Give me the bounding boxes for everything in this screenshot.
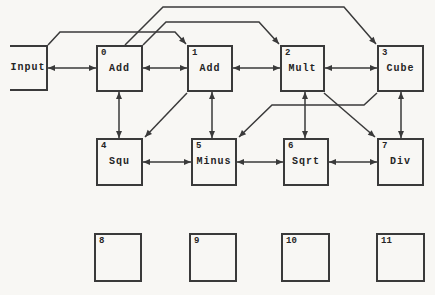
node-4-squ[interactable]: 4Squ: [96, 138, 143, 186]
arrowhead-add1-mult2-end: [273, 65, 280, 71]
node-1-add[interactable]: 1Add: [187, 45, 233, 92]
node-number: 0: [101, 48, 106, 58]
node-label: Add: [109, 63, 130, 75]
arrowhead-sqrt6-div7-end: [370, 159, 377, 165]
node-6-sqrt[interactable]: 6Sqrt: [283, 138, 329, 186]
arrowhead-input-add0-start: [48, 65, 55, 71]
node-label: Minus: [196, 156, 231, 168]
arrowhead-minus5-sqrt6-end: [276, 159, 283, 165]
arrowhead-add1-minus5-start: [209, 92, 215, 99]
node-number: 10: [286, 236, 297, 246]
node-10[interactable]: 10: [281, 233, 330, 282]
arrowhead-squ4-minus5-start: [143, 159, 150, 165]
node-7-div[interactable]: 7Div: [377, 138, 424, 186]
edge-input-add1: [48, 32, 186, 45]
node-label: Cube: [386, 63, 414, 75]
node-9[interactable]: 9: [189, 233, 237, 282]
arrowhead-add1-minus5-end: [209, 131, 215, 138]
edge-add0-mult2: [143, 22, 279, 45]
node-2-mult[interactable]: 2Mult: [280, 45, 325, 92]
arrowhead-mult2-cube3-start: [325, 65, 332, 71]
arrowhead-add1-mult2-start: [233, 65, 240, 71]
node-number: 5: [196, 141, 201, 151]
edge-add1-squ4: [145, 93, 187, 137]
node-label: Add: [199, 63, 220, 75]
node-number: 8: [99, 236, 104, 246]
node-0-add[interactable]: 0Add: [96, 45, 143, 92]
node-label: Sqrt: [292, 156, 320, 168]
arrowhead-add0-squ4-start: [116, 92, 122, 99]
node-label: Input: [10, 62, 45, 74]
arrowhead-cube3-div7-start: [398, 92, 404, 99]
arrowhead-minus5-sqrt6-start: [237, 159, 244, 165]
node-number: 6: [288, 141, 293, 151]
arrowhead-input-add0-end: [89, 65, 96, 71]
arrowhead-mult2-sqrt6-start: [302, 92, 308, 99]
node-8[interactable]: 8: [94, 233, 142, 282]
arrowhead-add0-add1-start: [143, 65, 150, 71]
node-11[interactable]: 11: [376, 233, 425, 282]
arrowhead-add0-add1-end: [180, 65, 187, 71]
node-5-minus[interactable]: 5Minus: [191, 138, 237, 186]
node-3-cube[interactable]: 3Cube: [377, 45, 424, 92]
node-number: 1: [192, 48, 197, 58]
node-number: 9: [194, 236, 199, 246]
node-number: 4: [101, 141, 106, 151]
node-label: Div: [390, 156, 411, 168]
node-label: Mult: [288, 63, 316, 75]
edge-mult2-div7: [324, 93, 375, 137]
arrowhead-cube3-div7-end: [398, 131, 404, 138]
node-number: 2: [285, 48, 290, 58]
edge-cube3-minus5: [239, 93, 377, 137]
node-input-input[interactable]: Input: [10, 45, 48, 91]
node-number: 11: [381, 236, 392, 246]
arrowhead-squ4-minus5-end: [184, 159, 191, 165]
node-number: 7: [382, 141, 387, 151]
arrowhead-mult2-cube3-end: [370, 65, 377, 71]
node-label: Squ: [109, 156, 130, 168]
arrowhead-sqrt6-div7-start: [329, 159, 336, 165]
arrowhead-add0-squ4-end: [116, 131, 122, 138]
arrowhead-mult2-sqrt6-end: [302, 131, 308, 138]
node-number: 3: [382, 48, 387, 58]
dataflow-diagram: Input0Add1Add2Mult3Cube4Squ5Minus6Sqrt7D…: [0, 0, 435, 295]
